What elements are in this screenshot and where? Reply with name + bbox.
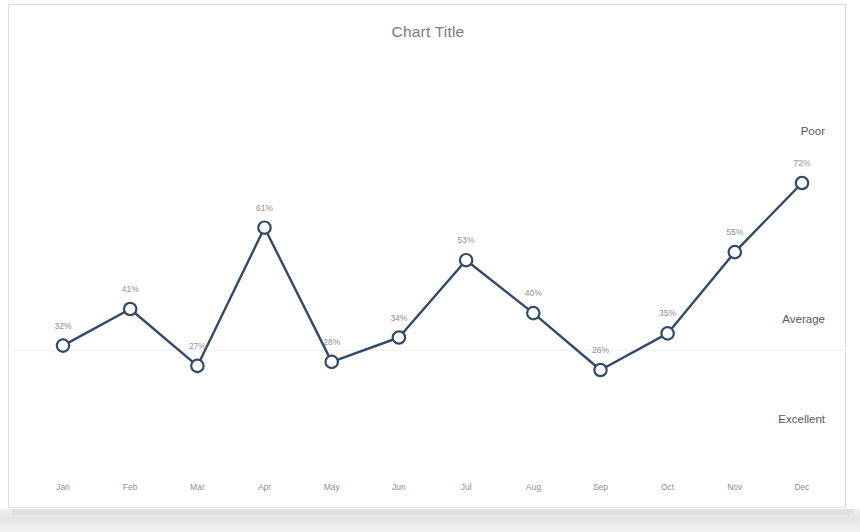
data-point-label: 41% — [122, 284, 139, 294]
data-point-label: 32% — [54, 321, 71, 331]
data-point-label: 53% — [458, 235, 475, 245]
data-point-marker[interactable] — [729, 246, 741, 258]
category-label-jul: Jul — [461, 482, 472, 492]
category-label-feb: Feb — [123, 482, 138, 492]
data-point-label: 28% — [323, 337, 340, 347]
data-point-marker[interactable] — [124, 303, 136, 315]
line-series-svg[interactable] — [9, 5, 847, 509]
data-point-label: 35% — [659, 308, 676, 318]
category-label-jun: Jun — [392, 482, 406, 492]
data-point-marker[interactable] — [527, 307, 539, 319]
category-label-jan: Jan — [56, 482, 70, 492]
band-label-excellent: Excellent — [778, 413, 825, 425]
category-label-nov: Nov — [727, 482, 742, 492]
data-point-label: 40% — [525, 288, 542, 298]
data-point-label: 55% — [726, 227, 743, 237]
category-label-oct: Oct — [661, 482, 674, 492]
data-point-marker[interactable] — [460, 254, 472, 266]
category-label-aug: Aug — [526, 482, 541, 492]
plot-area[interactable] — [9, 5, 847, 509]
category-label-dec: Dec — [794, 482, 809, 492]
data-point-label: 61% — [256, 203, 273, 213]
series-line[interactable] — [63, 183, 802, 370]
data-point-marker[interactable] — [393, 331, 405, 343]
category-label-mar: Mar — [190, 482, 205, 492]
page-edge-shading — [0, 509, 860, 532]
data-point-label: 34% — [390, 313, 407, 323]
chart-container[interactable]: Chart Title 32%41%27%61%28%34%53%40%26%3… — [8, 4, 846, 508]
category-label-sep: Sep — [593, 482, 608, 492]
screenshot-canvas: Chart Title 32%41%27%61%28%34%53%40%26%3… — [0, 0, 860, 532]
data-point-marker[interactable] — [326, 356, 338, 368]
data-point-label: 72% — [793, 158, 810, 168]
data-point-label: 26% — [592, 345, 609, 355]
data-point-marker[interactable] — [57, 339, 69, 351]
data-point-marker[interactable] — [796, 177, 808, 189]
data-point-marker[interactable] — [661, 327, 673, 339]
category-label-apr: Apr — [258, 482, 271, 492]
data-point-marker[interactable] — [594, 364, 606, 376]
category-label-may: May — [324, 482, 340, 492]
data-point-label: 27% — [189, 341, 206, 351]
data-point-marker[interactable] — [258, 222, 270, 234]
data-point-marker[interactable] — [191, 360, 203, 372]
band-label-average: Average — [782, 313, 825, 325]
band-label-poor: Poor — [801, 125, 825, 137]
